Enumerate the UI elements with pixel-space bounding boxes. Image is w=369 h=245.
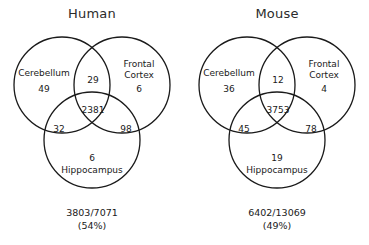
panel-title-human: Human xyxy=(0,6,184,21)
label-hippocampus-mouse: Hippocampus xyxy=(233,165,321,176)
panel-title-mouse: Mouse xyxy=(185,6,369,21)
label-frontal-cortex-line1-human: Frontal xyxy=(108,59,170,70)
count-hippocampus-only-human: 6 xyxy=(56,153,128,164)
count-cerebellum-only-human: 49 xyxy=(8,84,80,95)
count-hippocampus-only-mouse: 19 xyxy=(241,153,313,164)
label-hippocampus-human: Hippocampus xyxy=(48,165,136,176)
venn-panel-human: Human Cerebellum 49 Frontal Cortex 6 29 … xyxy=(0,0,184,245)
count-frontal-cortex-only-human: 6 xyxy=(108,84,170,95)
count-all-three-mouse: 3753 xyxy=(257,105,299,116)
count-frontal-hippocampus-human: 98 xyxy=(112,124,140,135)
label-frontal-cortex-line1-mouse: Frontal xyxy=(293,59,355,70)
count-cerebellum-frontal-human: 29 xyxy=(77,75,109,86)
footer-ratio-mouse: 6402/13069 xyxy=(185,207,369,219)
count-frontal-cortex-only-mouse: 4 xyxy=(293,84,355,95)
count-cerebellum-frontal-mouse: 12 xyxy=(262,75,294,86)
label-frontal-cortex-line2-human: Cortex xyxy=(108,70,170,81)
footer-percent-human: (54%) xyxy=(0,220,184,232)
count-cerebellum-only-mouse: 36 xyxy=(193,84,265,95)
footer-ratio-human: 3803/7071 xyxy=(0,207,184,219)
count-frontal-hippocampus-mouse: 78 xyxy=(297,124,325,135)
count-all-three-human: 2381 xyxy=(72,105,114,116)
count-cerebellum-hippocampus-human: 32 xyxy=(45,124,73,135)
venn-panel-mouse: Mouse Cerebellum 36 Frontal Cortex 4 12 … xyxy=(185,0,369,245)
label-frontal-cortex-line2-mouse: Cortex xyxy=(293,70,355,81)
label-cerebellum-mouse: Cerebellum xyxy=(193,68,265,79)
count-cerebellum-hippocampus-mouse: 45 xyxy=(230,124,258,135)
footer-percent-mouse: (49%) xyxy=(185,220,369,232)
label-cerebellum-human: Cerebellum xyxy=(8,68,80,79)
